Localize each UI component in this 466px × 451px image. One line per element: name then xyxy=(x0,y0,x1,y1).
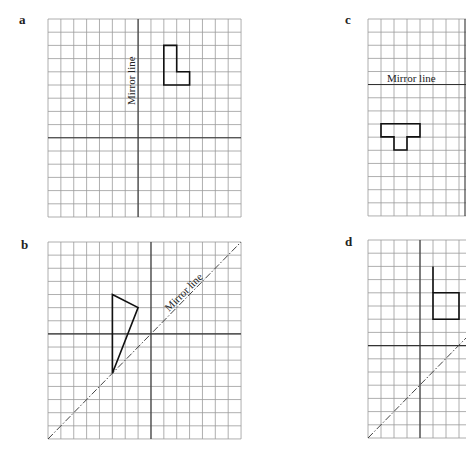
mirror-label-c: Mirror line xyxy=(387,72,436,84)
panel-c: Mirror line xyxy=(368,19,466,216)
panel-d xyxy=(368,240,466,438)
panel-a: Mirror line xyxy=(48,19,241,217)
grid-d xyxy=(368,240,466,438)
mirror-label-b: Mirror line xyxy=(162,271,205,314)
grid-c xyxy=(368,19,466,216)
diagram-canvas: Mirror line Mirror line Mirror line xyxy=(0,0,466,451)
mirror-line-d xyxy=(368,338,466,438)
mirror-label-a: Mirror line xyxy=(125,56,137,105)
panel-b: Mirror line xyxy=(48,242,241,439)
grid-a xyxy=(48,19,241,217)
mirror-line-b xyxy=(48,242,241,439)
